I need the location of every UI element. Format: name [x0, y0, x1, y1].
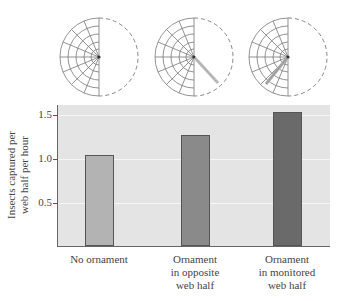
- web-no-ornament: [60, 18, 138, 96]
- plot-area: [57, 105, 330, 247]
- y-tick-mark: [53, 115, 58, 116]
- y-tick-0-5: 0.5: [20, 196, 52, 208]
- web-diagrams: [0, 0, 350, 100]
- x-label-ornament-monitored: Ornament in monitored web half: [242, 253, 332, 292]
- web-ornament-monitored: [249, 18, 327, 96]
- web-ornament-opposite: [155, 18, 233, 96]
- x-label-ornament-opposite: Ornament in opposite web half: [150, 253, 240, 292]
- bar-ornament-monitored: [273, 112, 302, 246]
- y-tick-1-5: 1.5: [20, 108, 52, 120]
- bar-no-ornament: [85, 155, 114, 246]
- y-tick-mark: [53, 203, 58, 204]
- y-tick-1-0: 1.0: [20, 152, 52, 164]
- y-tick-mark: [53, 159, 58, 160]
- x-label-no-ornament: No ornament: [54, 253, 144, 266]
- y-axis-label: Insects captured per web half per hour: [5, 115, 31, 235]
- bar-ornament-opposite: [181, 135, 210, 246]
